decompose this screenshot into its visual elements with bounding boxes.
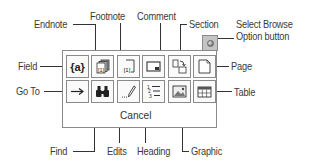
- callout-graphic: Graphic: [191, 145, 222, 157]
- callout-field: Field: [18, 60, 37, 72]
- leader-select-browse: [218, 38, 234, 39]
- find-button[interactable]: [91, 80, 114, 103]
- leader-find-h: [73, 151, 95, 152]
- leader-endnote-h: [73, 24, 95, 25]
- callout-page: Page: [231, 60, 252, 72]
- callout-endnote: Endnote: [34, 18, 67, 30]
- browse-by-footnote-button[interactable]: [1]: [117, 55, 140, 78]
- cancel-button[interactable]: Cancel: [120, 109, 152, 121]
- callout-table: Table: [234, 86, 255, 98]
- browse-by-section-button[interactable]: [168, 55, 191, 78]
- browse-by-table-button[interactable]: [193, 80, 216, 103]
- browse-by-page-button[interactable]: [193, 55, 216, 78]
- browse-by-graphic-button[interactable]: [168, 80, 191, 103]
- picture-icon: [171, 83, 188, 100]
- section-icon: [171, 58, 188, 75]
- select-browse-object-button[interactable]: [202, 35, 218, 51]
- arrow-right-icon: [69, 83, 86, 100]
- callout-select-browse-1: Select Browse: [236, 18, 293, 30]
- endnote-icon: [1]: [94, 58, 111, 75]
- callout-section: Section: [189, 18, 219, 30]
- svg-text:[1]: [1]: [124, 67, 131, 73]
- table-icon: [196, 83, 213, 100]
- callout-heading: Heading: [137, 145, 170, 157]
- svg-text:3: 3: [149, 93, 152, 99]
- browse-by-endnote-button[interactable]: [1]: [91, 55, 114, 78]
- leader-section-h: [180, 24, 187, 25]
- callout-comment: Comment: [137, 10, 176, 22]
- callout-select-browse-2: Option button: [236, 30, 289, 42]
- browse-by-edits-button[interactable]: [117, 80, 140, 103]
- go-to-button[interactable]: [66, 80, 89, 103]
- pencil-icon: [120, 83, 137, 100]
- browse-by-heading-button[interactable]: 1 2 3: [142, 80, 165, 103]
- browse-by-comment-button[interactable]: [142, 55, 165, 78]
- browse-by-field-button[interactable]: {a}: [66, 55, 89, 78]
- leader-graphic-h: [182, 151, 189, 152]
- svg-text:{a}: {a}: [70, 61, 85, 73]
- callout-footnote: Footnote: [90, 10, 125, 22]
- svg-text:[1]: [1]: [98, 67, 105, 73]
- field-code-icon: {a}: [69, 58, 86, 75]
- binoculars-icon: [94, 83, 111, 100]
- page-icon: [196, 58, 213, 75]
- circle-icon: [207, 40, 214, 47]
- footnote-icon: [1]: [120, 58, 137, 75]
- callout-goto: Go To: [16, 85, 40, 97]
- callout-edits: Edits: [107, 145, 127, 157]
- callout-find: Find: [50, 145, 67, 157]
- comment-icon: [145, 58, 162, 75]
- numbered-list-icon: 1 2 3: [145, 83, 162, 100]
